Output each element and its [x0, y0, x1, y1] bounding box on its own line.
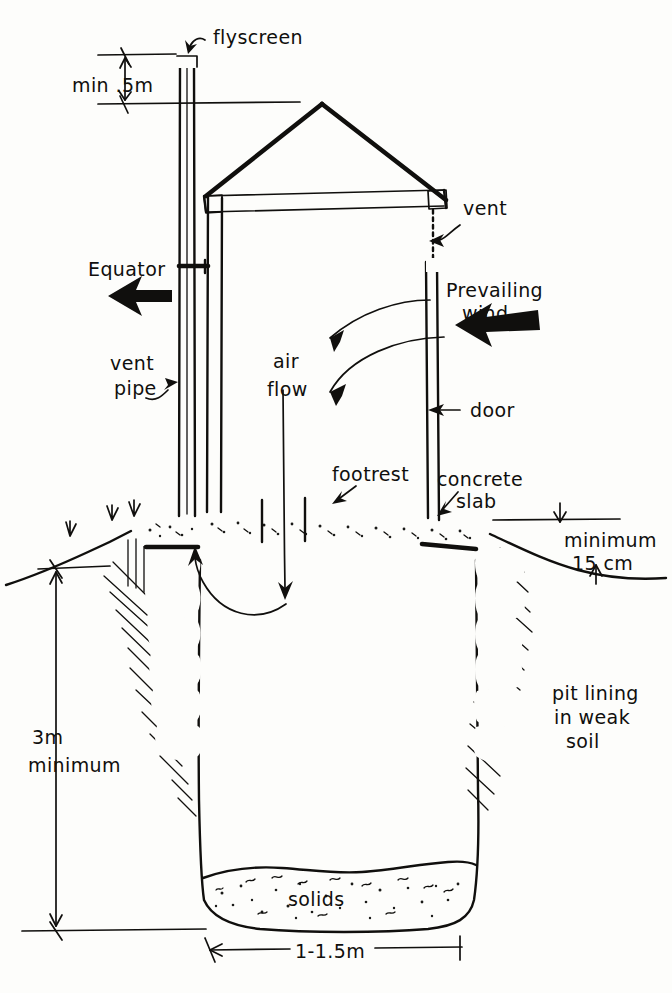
- label-minimum-line2: 15 cm: [572, 552, 633, 574]
- label-width: 1-1.5m: [295, 940, 365, 962]
- ground-line-left: [6, 500, 140, 585]
- label-solids: solids: [288, 888, 344, 910]
- pit-cavity: [199, 560, 479, 932]
- label-vent-pipe-line2: pipe: [114, 377, 157, 399]
- vent-pipe: [179, 66, 195, 516]
- label-pit-lining-line3: soil: [566, 730, 600, 752]
- door-top-cap: [426, 258, 440, 272]
- label-pit-lining-line2: in weak: [554, 706, 630, 728]
- label-concrete-line1: concrete: [437, 468, 523, 490]
- diagram-canvas: flyscreen min .5m Equator vent pipe air …: [0, 0, 672, 993]
- label-minimum-line1: minimum: [564, 529, 657, 551]
- flyscreen: [173, 52, 201, 68]
- equator-arrow: [108, 276, 172, 316]
- airflow-up-vent-pipe: [188, 546, 286, 615]
- label-pit-lining-line1: pit lining: [552, 682, 639, 704]
- label-vent: vent: [463, 197, 507, 219]
- label-prevailing-line1: Prevailing: [446, 279, 543, 301]
- label-vent-pipe-line1: vent: [110, 352, 154, 374]
- label-concrete-line2: slab: [456, 490, 496, 512]
- label-min-half-m: min .5m: [72, 74, 153, 96]
- roof: [204, 104, 447, 213]
- label-air-line1: air: [273, 350, 299, 372]
- label-depth-line1: 3m: [32, 726, 63, 748]
- label-footrest: footrest: [332, 463, 409, 485]
- label-air-line2: flow: [267, 378, 308, 400]
- label-flyscreen: flyscreen: [213, 26, 303, 48]
- leader-concrete-slab: [437, 492, 458, 516]
- label-door: door: [470, 399, 515, 421]
- label-equator: Equator: [88, 258, 165, 280]
- pit-lining-stones-left: [145, 546, 202, 760]
- airflow-down-squat-hole: [278, 390, 293, 600]
- pit-lining-stones-right: [473, 548, 525, 762]
- label-depth-line2: minimum: [28, 754, 121, 776]
- leader-door: [428, 404, 460, 416]
- leader-flyscreen: [185, 38, 205, 54]
- airflow-arrow-vent: [330, 300, 430, 352]
- label-prevailing-line2: wind: [462, 302, 509, 324]
- latrine-diagram: flyscreen min .5m Equator vent pipe air …: [0, 0, 672, 993]
